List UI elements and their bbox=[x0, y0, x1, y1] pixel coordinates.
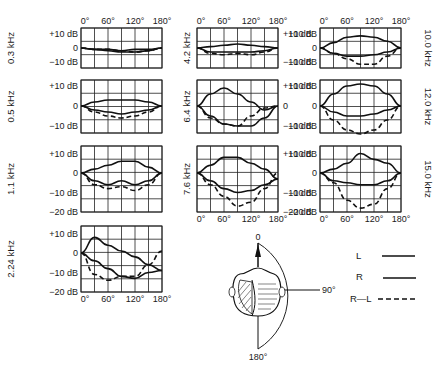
left-ear-icon bbox=[229, 287, 235, 297]
label-0-deg: 0 bbox=[255, 232, 260, 242]
panel-group: +10 dB0−10 dB0°60°120°180°0.3 kHz+10 dB0… bbox=[5, 16, 434, 304]
head-diagram: 0 90° 180° bbox=[229, 232, 336, 362]
y-tick-label: 0 bbox=[73, 43, 78, 53]
frequency-label: 0.3 kHz bbox=[5, 32, 16, 64]
y-tick-label: −10 dB bbox=[49, 268, 78, 278]
y-tick-label: −10 dB bbox=[49, 188, 78, 198]
y-tick-label: +10 dB bbox=[49, 29, 78, 39]
x-tick-label: 120° bbox=[126, 16, 145, 26]
y-tick-label: −10 dB bbox=[288, 121, 317, 131]
panel-0-5-khz: +10 dB0−10 dB0.5 kHz bbox=[5, 80, 162, 133]
label-90-deg: 90° bbox=[322, 285, 336, 295]
x-tick-label: 120° bbox=[242, 16, 261, 26]
legend-label-R: R bbox=[356, 271, 363, 282]
x-tick-label: 60° bbox=[101, 16, 115, 26]
y-tick-label: −10 dB bbox=[288, 188, 317, 198]
panel-15-0-khz: +10 dB0−10 dB−20 dB0°60°120°180°15.0 kHz bbox=[288, 146, 434, 224]
label-180-deg: 180° bbox=[249, 352, 268, 362]
frequency-label: 0.5 kHz bbox=[5, 90, 16, 122]
frequency-label: 4.2 kHz bbox=[181, 32, 192, 64]
frequency-label: 1.1 kHz bbox=[5, 163, 16, 195]
frequency-label: 6.4 kHz bbox=[181, 90, 192, 122]
y-tick-label: −20 dB bbox=[49, 207, 78, 217]
x-tick-label: 0° bbox=[81, 294, 90, 304]
panel-0-3-khz: +10 dB0−10 dB0°60°120°180°0.3 kHz bbox=[5, 16, 172, 68]
y-tick-label: −20 dB bbox=[49, 287, 78, 297]
panel-2-24-khz: +10 dB0−10 dB−20 dB0°60°120°180°2.24 kHz bbox=[5, 226, 172, 304]
y-tick-label: −10 dB bbox=[288, 57, 317, 67]
x-tick-label: 180° bbox=[392, 16, 411, 26]
x-tick-label: 180° bbox=[153, 16, 172, 26]
y-tick-label: −20 dB bbox=[288, 207, 317, 217]
legend-label-RL: R—L bbox=[350, 293, 372, 304]
x-tick-label: 0° bbox=[81, 16, 90, 26]
frequency-label: 12.0 kHz bbox=[423, 88, 434, 126]
y-tick-label: 0 bbox=[73, 248, 78, 258]
y-tick-label: 0 bbox=[312, 168, 317, 178]
x-tick-label: 0° bbox=[320, 214, 329, 224]
x-tick-label: 60° bbox=[217, 16, 231, 26]
y-tick-label: 0 bbox=[312, 101, 317, 111]
x-tick-label: 120° bbox=[126, 294, 145, 304]
y-tick-label: 0 bbox=[73, 101, 78, 111]
frequency-label: 15.0 kHz bbox=[423, 160, 434, 198]
x-tick-label: 0° bbox=[320, 16, 329, 26]
y-tick-label: +10 dB bbox=[49, 81, 78, 91]
x-tick-label: 60° bbox=[340, 16, 354, 26]
legend-label-L: L bbox=[356, 250, 361, 261]
x-tick-label: 120° bbox=[365, 16, 384, 26]
y-tick-label: +10 dB bbox=[49, 229, 78, 239]
y-tick-label: +10 dB bbox=[288, 29, 317, 39]
y-tick-label: −10 dB bbox=[49, 121, 78, 131]
frequency-label: 2.24 kHz bbox=[5, 240, 16, 278]
legend: L R R—L bbox=[350, 250, 416, 304]
y-tick-label: +10 dB bbox=[49, 149, 78, 159]
panel-12-0-khz: +10 dB0−10 dB12.0 kHz bbox=[288, 80, 434, 134]
hrtf-figure: +10 dB0−10 dB0°60°120°180°0.3 kHz+10 dB0… bbox=[0, 0, 441, 368]
y-tick-label: +10 dB bbox=[288, 149, 317, 159]
x-tick-label: 60° bbox=[340, 214, 354, 224]
panel-10-0-khz: +10 dB0−10 dB0°60°120°180°10.0 kHz bbox=[288, 16, 434, 68]
x-tick-label: 60° bbox=[101, 294, 115, 304]
y-tick-label: 0 bbox=[283, 101, 288, 111]
x-tick-label: 180° bbox=[269, 214, 288, 224]
x-tick-label: 120° bbox=[242, 214, 261, 224]
head-outline-icon bbox=[233, 268, 281, 316]
x-tick-label: 60° bbox=[217, 214, 231, 224]
y-tick-label: 0 bbox=[312, 43, 317, 53]
front-arrow-head-icon bbox=[255, 244, 261, 257]
x-tick-label: 180° bbox=[269, 16, 288, 26]
x-tick-label: 180° bbox=[392, 214, 411, 224]
x-tick-label: 0° bbox=[197, 16, 206, 26]
right-ear-icon bbox=[279, 287, 285, 297]
frequency-label: 10.0 kHz bbox=[423, 29, 434, 67]
x-tick-label: 0° bbox=[197, 214, 206, 224]
y-tick-label: 0 bbox=[73, 168, 78, 178]
y-tick-label: −10 dB bbox=[49, 57, 78, 67]
y-tick-label: +10 dB bbox=[288, 81, 317, 91]
x-tick-label: 120° bbox=[365, 214, 384, 224]
x-tick-label: 180° bbox=[153, 294, 172, 304]
panel-1-1-khz: +10 dB0−10 dB−20 dB1.1 kHz bbox=[5, 146, 162, 217]
frequency-label: 7.6 kHz bbox=[181, 163, 192, 195]
